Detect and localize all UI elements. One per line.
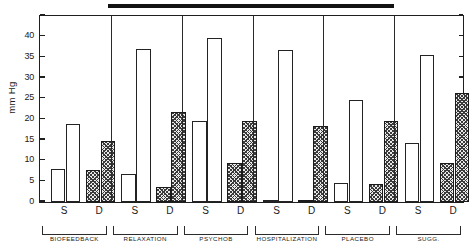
y-tick-mark-right bbox=[459, 14, 464, 15]
subgroup-label-s: S bbox=[404, 205, 432, 216]
bar-psychob-d-2 bbox=[242, 121, 257, 202]
y-tick-label: 30 bbox=[24, 72, 34, 83]
y-tick-label: 10 bbox=[24, 154, 34, 165]
group-label: HOSPITALIZATION bbox=[252, 235, 323, 242]
bar-hospitalization-d-1 bbox=[298, 200, 313, 202]
bar-hospitalization-d-2 bbox=[313, 126, 328, 202]
y-tick-mark-left bbox=[40, 138, 45, 139]
group-bracket bbox=[396, 226, 461, 235]
group-divider bbox=[111, 16, 112, 202]
bar-chart-figure: mm Hg 0510152025303540 SDBIOFEEDBACKSDRE… bbox=[0, 0, 471, 252]
group-label: PSYCHOB bbox=[181, 235, 252, 242]
y-tick-label: 35 bbox=[24, 51, 34, 62]
bar-psychob-d-1 bbox=[227, 163, 242, 202]
subgroup-label-d: D bbox=[369, 205, 397, 216]
y-tick-label: 25 bbox=[24, 92, 34, 103]
bar-sugg-s-2 bbox=[420, 55, 435, 202]
group-bracket bbox=[42, 226, 107, 235]
bar-placebo-d-1 bbox=[369, 184, 384, 202]
bar-relaxation-d-1 bbox=[156, 187, 171, 202]
subgroup-label-s: S bbox=[121, 205, 149, 216]
group-bracket bbox=[255, 226, 320, 235]
y-tick-mark-right bbox=[459, 35, 464, 36]
subgroup-label-s: S bbox=[50, 205, 78, 216]
y-tick-label: 40 bbox=[24, 30, 34, 41]
group-label: PLACEBO bbox=[322, 235, 393, 242]
bar-sugg-d-1 bbox=[440, 163, 455, 202]
y-tick-mark-left bbox=[40, 159, 45, 160]
subgroup-label-d: D bbox=[439, 205, 467, 216]
group-divider bbox=[323, 16, 324, 202]
bar-relaxation-d-2 bbox=[171, 112, 186, 202]
y-tick-label: 5 bbox=[29, 175, 34, 186]
subgroup-label-d: D bbox=[156, 205, 184, 216]
group-divider bbox=[182, 16, 183, 202]
subgroup-label-s: S bbox=[192, 205, 220, 216]
bar-relaxation-s-2 bbox=[136, 49, 151, 202]
subgroup-label-d: D bbox=[298, 205, 326, 216]
group-bracket bbox=[184, 226, 249, 235]
bar-sugg-d-2 bbox=[455, 93, 470, 202]
bar-placebo-s-2 bbox=[349, 100, 364, 202]
subgroup-label-d: D bbox=[85, 205, 113, 216]
bar-psychob-s-1 bbox=[192, 121, 207, 202]
y-tick-mark-right bbox=[459, 76, 464, 77]
bar-biofeedback-s-2 bbox=[66, 124, 81, 202]
bar-placebo-s-1 bbox=[334, 183, 349, 202]
group-label: RELAXATION bbox=[110, 235, 181, 242]
group-label: SUGG. bbox=[393, 235, 464, 242]
bar-psychob-s-2 bbox=[207, 38, 222, 203]
y-tick-label: 0 bbox=[29, 196, 34, 207]
subgroup-label-s: S bbox=[334, 205, 362, 216]
subgroup-label-d: D bbox=[227, 205, 255, 216]
bar-biofeedback-d-1 bbox=[86, 170, 101, 202]
y-tick-mark-left bbox=[40, 118, 45, 119]
x-axis-annotations: SDBIOFEEDBACKSDRELAXATIONSDPSYCHOBSDHOSP… bbox=[39, 203, 464, 252]
bar-biofeedback-s-1 bbox=[51, 169, 66, 202]
y-tick-mark-left bbox=[40, 56, 45, 57]
y-tick-mark-left bbox=[40, 200, 45, 201]
subgroup-label-s: S bbox=[263, 205, 291, 216]
group-bracket bbox=[113, 226, 178, 235]
group-bracket bbox=[325, 226, 390, 235]
bar-placebo-d-2 bbox=[384, 121, 399, 202]
y-tick-mark-left bbox=[40, 35, 45, 36]
bar-hospitalization-s-2 bbox=[278, 50, 293, 202]
plot-area: 0510152025303540 bbox=[39, 15, 464, 203]
y-tick-mark-right bbox=[459, 56, 464, 57]
y-tick-label: 20 bbox=[24, 113, 34, 124]
y-tick-label: 15 bbox=[24, 134, 34, 145]
group-divider bbox=[394, 16, 395, 202]
y-tick-mark-left bbox=[40, 14, 45, 15]
group-divider bbox=[253, 16, 254, 202]
redacted-title-bar bbox=[108, 4, 394, 8]
group-label: BIOFEEDBACK bbox=[39, 235, 110, 242]
bar-relaxation-s-1 bbox=[121, 174, 136, 202]
y-tick-mark-left bbox=[40, 76, 45, 77]
bar-hospitalization-s-1 bbox=[263, 200, 278, 202]
y-tick-mark-left bbox=[40, 97, 45, 98]
y-axis-label: mm Hg bbox=[6, 63, 17, 133]
bar-sugg-s-1 bbox=[405, 143, 420, 202]
y-tick-mark-left bbox=[40, 180, 45, 181]
bar-biofeedback-d-2 bbox=[101, 141, 116, 202]
